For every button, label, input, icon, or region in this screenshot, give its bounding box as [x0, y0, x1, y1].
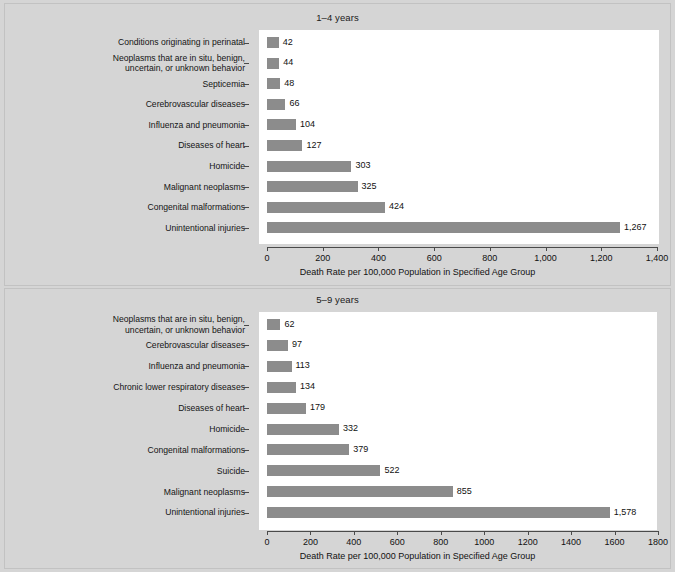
bar-value-label: 42	[283, 37, 293, 47]
category-tick	[244, 63, 249, 64]
bar-row: Influenza and pneumonia113	[5, 355, 670, 377]
bar-value-label: 97	[292, 339, 302, 349]
bar-row: Conditions originating in perinatal42	[5, 32, 670, 54]
bar-value-label: 855	[457, 486, 472, 496]
category-label: Unintentional injuries	[15, 507, 245, 517]
bar	[267, 403, 306, 414]
bar-row: Cerebrovascular diseases66	[5, 93, 670, 115]
x-axis-tick-label: 1800	[648, 537, 668, 547]
category-tick	[244, 513, 249, 514]
chart-panel-5-9-years: 5–9 years Neoplasms that are in situ, be…	[4, 288, 671, 569]
x-axis-tick-label: 400	[371, 253, 386, 263]
bar-row: Neoplasms that are in situ, benign, unce…	[5, 314, 670, 336]
x-axis-tick-label: 1000	[474, 537, 494, 547]
x-axis-tick-label: 1,000	[534, 253, 557, 263]
bar-row: Diseases of heart127	[5, 135, 670, 157]
bar-rows: Neoplasms that are in situ, benign, unce…	[5, 312, 670, 530]
bar-value-label: 522	[384, 465, 399, 475]
category-label: Malignant neoplasms	[15, 487, 245, 497]
category-tick	[244, 166, 249, 167]
bar	[267, 382, 296, 393]
bar-value-label: 1,578	[614, 507, 637, 517]
category-tick	[244, 345, 249, 346]
bar-row: Homicide303	[5, 155, 670, 177]
bar	[267, 58, 279, 69]
bar-value-label: 104	[300, 119, 315, 129]
bar	[267, 319, 280, 330]
chart-title: 5–9 years	[5, 294, 670, 305]
bar-row: Unintentional injuries1,578	[5, 502, 670, 524]
bar-row: Unintentional injuries1,267	[5, 217, 670, 239]
category-label: Unintentional injuries	[15, 223, 245, 233]
bar-value-label: 424	[389, 201, 404, 211]
category-tick	[244, 43, 249, 44]
category-label: Diseases of heart	[15, 140, 245, 150]
category-label: Malignant neoplasms	[15, 182, 245, 192]
x-axis-tick-label: 0	[264, 537, 269, 547]
x-axis-tick-label: 200	[315, 253, 330, 263]
category-label: Congenital malformations	[15, 202, 245, 212]
category-label: Cerebrovascular diseases	[15, 99, 245, 109]
category-tick	[244, 408, 249, 409]
category-tick	[244, 84, 249, 85]
x-axis-tick	[397, 531, 398, 535]
figure-page: 1–4 years Conditions originating in peri…	[0, 0, 675, 572]
bar-row: Malignant neoplasms855	[5, 481, 670, 503]
bar	[267, 119, 296, 130]
x-axis-tick-label: 800	[433, 537, 448, 547]
bar-row: Congenital malformations379	[5, 439, 670, 461]
category-label: Conditions originating in perinatal	[15, 37, 245, 47]
x-axis-tick-label: 1200	[518, 537, 538, 547]
bar-row: Diseases of heart179	[5, 397, 670, 419]
category-tick	[244, 429, 249, 430]
x-axis-tick-label: 200	[303, 537, 318, 547]
bar	[267, 444, 349, 455]
category-label: Diseases of heart	[15, 403, 245, 413]
category-label: Septicemia	[15, 79, 245, 89]
category-label: Homicide	[15, 161, 245, 171]
bar-value-label: 127	[306, 140, 321, 150]
bar	[267, 222, 620, 233]
x-axis-tick-label: 1600	[605, 537, 625, 547]
category-tick	[244, 104, 249, 105]
bar-value-label: 66	[289, 98, 299, 108]
category-label: Neoplasms that are in situ, benign, unce…	[15, 314, 245, 334]
category-tick	[244, 228, 249, 229]
category-label: Neoplasms that are in situ, benign, unce…	[15, 53, 245, 73]
bar-row: Malignant neoplasms325	[5, 176, 670, 198]
bar	[267, 424, 339, 435]
bar-row: Suicide522	[5, 460, 670, 482]
bar-value-label: 44	[283, 57, 293, 67]
category-label: Congenital malformations	[15, 445, 245, 455]
chart-panel-1-4-years: 1–4 years Conditions originating in peri…	[4, 3, 671, 286]
x-axis-tick	[484, 531, 485, 535]
bar	[267, 486, 453, 497]
category-tick	[244, 187, 249, 188]
x-axis-tick	[310, 531, 311, 535]
bar-row: Cerebrovascular diseases97	[5, 334, 670, 356]
bar	[267, 465, 380, 476]
category-tick	[244, 366, 249, 367]
bar-value-label: 379	[353, 444, 368, 454]
category-tick	[244, 325, 249, 326]
category-label: Influenza and pneumonia	[15, 120, 245, 130]
bar	[267, 340, 288, 351]
x-axis-tick	[267, 531, 268, 535]
bar	[267, 202, 385, 213]
x-axis-tick-label: 0	[264, 253, 269, 263]
x-axis-tick	[615, 531, 616, 535]
x-axis-tick-label: 600	[427, 253, 442, 263]
x-axis-tick	[601, 247, 602, 251]
category-label: Influenza and pneumonia	[15, 361, 245, 371]
category-label: Suicide	[15, 466, 245, 476]
x-axis-tick	[490, 247, 491, 251]
bar	[267, 78, 280, 89]
x-axis-tick	[528, 531, 529, 535]
x-axis-tick	[546, 247, 547, 251]
x-axis-tick	[658, 531, 659, 535]
bar-value-label: 48	[284, 78, 294, 88]
x-axis-caption: Death Rate per 100,000 Population in Spe…	[5, 267, 670, 277]
x-axis-caption: Death Rate per 100,000 Population in Spe…	[5, 551, 670, 561]
bar	[267, 161, 351, 172]
bar-row: Influenza and pneumonia104	[5, 114, 670, 136]
